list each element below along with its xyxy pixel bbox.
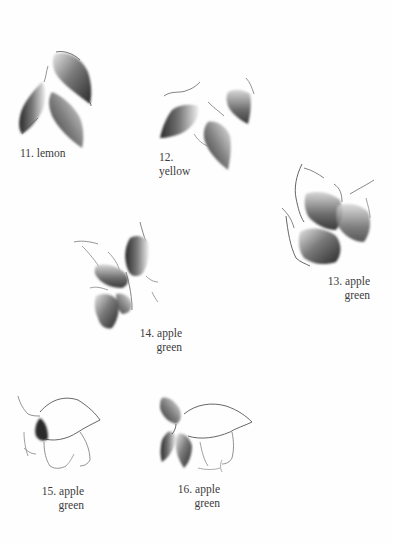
caption-line: 11. lemon xyxy=(20,146,66,160)
caption-line: green xyxy=(310,288,370,302)
caption-15: 15. apple green xyxy=(24,484,84,512)
caption-line: green xyxy=(122,340,182,354)
caption-line: 15. apple xyxy=(24,484,84,498)
caption-13: 13. apple green xyxy=(310,274,370,302)
caption-line: green xyxy=(160,496,220,510)
leaf-figure-15: 15. apple green xyxy=(0,380,130,520)
caption-line: 12. xyxy=(159,150,190,164)
caption-16: 16. apple green xyxy=(160,482,220,510)
caption-11: 11. lemon xyxy=(20,146,66,160)
caption-line: 16. apple xyxy=(160,482,220,496)
leaf-figure-14: 14. apple green xyxy=(60,210,200,360)
caption-12: 12. yellow xyxy=(159,150,190,178)
leaf-figure-12: 12. yellow xyxy=(150,60,270,190)
leaf-figure-11: 11. lemon xyxy=(0,0,130,170)
caption-14: 14. apple green xyxy=(122,326,182,354)
caption-line: green xyxy=(24,498,84,512)
leaf-figure-13: 13. apple green xyxy=(270,150,393,310)
leaf-cluster-illustration xyxy=(0,0,130,170)
leaf-figure-16: 16. apple green xyxy=(140,380,280,520)
book-page: 11. lemon 12. yellow xyxy=(0,0,393,543)
caption-line: yellow xyxy=(159,164,190,178)
caption-line: 14. apple xyxy=(122,326,182,340)
caption-line: 13. apple xyxy=(310,274,370,288)
